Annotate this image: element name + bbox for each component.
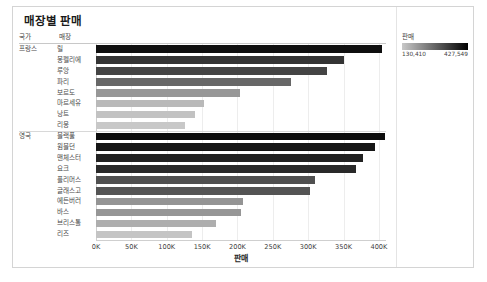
chart-row[interactable]: [96, 142, 386, 153]
row-label-글래스고: 글래스고: [57, 186, 81, 197]
chart-row[interactable]: [96, 66, 386, 77]
row-label-요크: 요크: [57, 164, 69, 175]
bar-리옹[interactable]: [96, 122, 185, 130]
bar-파리[interactable]: [96, 78, 291, 86]
chart-row[interactable]: [96, 88, 386, 99]
row-label-맨체스터: 맨체스터: [57, 153, 81, 164]
chart-row[interactable]: [96, 77, 386, 88]
row-label-브리스톨: 브리스톨: [57, 218, 81, 229]
chart-row[interactable]: [96, 153, 386, 164]
legend-min-label: 130,410: [402, 51, 426, 57]
chart-row[interactable]: [96, 55, 386, 66]
row-label-에든버러: 에든버러: [57, 196, 81, 207]
row-label-파리: 파리: [57, 77, 69, 88]
bar-리즈[interactable]: [96, 231, 192, 239]
bar-맨체스터[interactable]: [96, 154, 363, 162]
chart-row[interactable]: [96, 186, 386, 197]
row-label-리옹: 리옹: [57, 120, 69, 131]
row-label-보르도: 보르도: [57, 88, 75, 99]
chart-row[interactable]: [96, 207, 386, 218]
legend: 판매 130,410 427,549: [402, 31, 468, 60]
chart-row[interactable]: [96, 44, 386, 55]
column-header-row: 국가 매장: [19, 31, 399, 43]
chart-row[interactable]: [96, 109, 386, 120]
x-axis-tick-label: 0K: [92, 243, 101, 251]
x-axis-tick-label: 200K: [229, 243, 246, 251]
legend-title: 판매: [402, 31, 468, 41]
x-axis-title: 판매: [96, 252, 386, 263]
row-label-윔블던: 윔블던: [57, 142, 75, 153]
chart-row[interactable]: [96, 196, 386, 207]
bar-마르세유[interactable]: [96, 100, 204, 108]
bar-낭트[interactable]: [96, 111, 195, 119]
bar-릴[interactable]: [96, 45, 382, 53]
bar-루앙[interactable]: [96, 67, 327, 75]
bar-에든버러[interactable]: [96, 198, 243, 206]
x-axis-tick-label: 250K: [264, 243, 281, 251]
chart-row[interactable]: [96, 131, 386, 142]
x-axis-tick-label: 50K: [125, 243, 138, 251]
x-axis-tick-label: 150K: [194, 243, 211, 251]
chart-row[interactable]: [96, 164, 386, 175]
row-label-블랙풀: 블랙풀: [57, 131, 75, 142]
group-label-프랑스: 프랑스: [19, 44, 37, 55]
row-label-리즈: 리즈: [57, 229, 69, 240]
bar-몽펠리에[interactable]: [96, 56, 344, 64]
bar-윔블던[interactable]: [96, 143, 375, 151]
legend-gradient-bar: [402, 43, 468, 50]
bar-플리머스[interactable]: [96, 176, 315, 184]
column-header-country: 국가: [19, 31, 31, 41]
legend-max-label: 427,549: [444, 51, 468, 57]
x-axis-line: [96, 240, 386, 241]
bar-브리스톨[interactable]: [96, 220, 216, 228]
row-label-플리머스: 플리머스: [57, 175, 81, 186]
plot-area: [96, 44, 386, 240]
bar-보르도[interactable]: [96, 89, 240, 97]
x-axis-tick-label: 100K: [158, 243, 175, 251]
x-axis-tick-label: 400K: [370, 243, 387, 251]
x-axis-tick-label: 300K: [300, 243, 317, 251]
chart-row[interactable]: [96, 98, 386, 109]
row-label-릴: 릴: [57, 44, 63, 55]
chart-row[interactable]: [96, 229, 386, 240]
chart-row[interactable]: [96, 175, 386, 186]
page-title: 매장별 판매: [24, 12, 82, 28]
column-header-store: 매장: [59, 31, 71, 41]
legend-divider: [396, 7, 397, 267]
row-label-마르세유: 마르세유: [57, 98, 81, 109]
row-label-루앙: 루앙: [57, 66, 69, 77]
row-label-몽펠리에: 몽펠리에: [57, 55, 81, 66]
chart-row[interactable]: [96, 218, 386, 229]
row-label-낭트: 낭트: [57, 109, 69, 120]
row-label-바스: 바스: [57, 207, 69, 218]
bar-요크[interactable]: [96, 165, 356, 173]
bar-글래스고[interactable]: [96, 187, 310, 195]
bar-바스[interactable]: [96, 209, 241, 217]
x-axis-tick-label: 350K: [335, 243, 352, 251]
legend-scale: 130,410 427,549: [402, 51, 468, 60]
group-label-영국: 영국: [19, 131, 31, 142]
bar-블랙풀[interactable]: [96, 133, 385, 141]
chart-row[interactable]: [96, 120, 386, 131]
